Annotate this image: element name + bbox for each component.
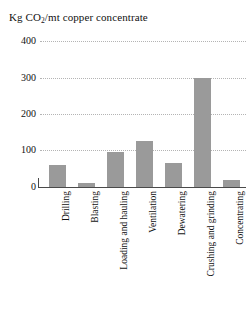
x-label-crushing-and-grinding: Crushing and grinding — [207, 191, 217, 277]
bar-blasting — [78, 183, 95, 187]
x-axis-line — [38, 187, 246, 188]
gridline-200 — [40, 114, 246, 115]
bar-drilling — [49, 165, 66, 187]
x-label-ventilation: Ventilation — [149, 191, 159, 233]
bar-ventilation — [136, 141, 153, 187]
x-label-loading-and-hauling: Loading and hauling — [120, 191, 130, 270]
bar-chart: Kg CO2/mt copper concentrate 400 300 200… — [0, 0, 251, 309]
x-label-drilling: Drilling — [62, 191, 72, 221]
ytick-label-200: 200 — [2, 109, 36, 119]
bar-crushing-and-grinding — [194, 78, 211, 188]
ytick-label-0: 0 — [2, 182, 36, 192]
x-label-concentrating: Concentrating — [236, 191, 246, 245]
x-label-blasting: Blasting — [91, 191, 101, 223]
gridline-300 — [40, 78, 246, 79]
bar-dewatering — [165, 163, 182, 187]
ytick-label-300: 300 — [2, 73, 36, 83]
ytick-label-400: 400 — [2, 36, 36, 46]
plot-area: 400 300 200 100 0 Drilling Blasting Load… — [0, 0, 251, 309]
x-label-dewatering: Dewatering — [178, 191, 188, 235]
bar-concentrating — [223, 180, 240, 187]
bar-loading-and-hauling — [107, 152, 124, 187]
gridline-400 — [40, 41, 246, 42]
ytick-label-100: 100 — [2, 145, 36, 155]
